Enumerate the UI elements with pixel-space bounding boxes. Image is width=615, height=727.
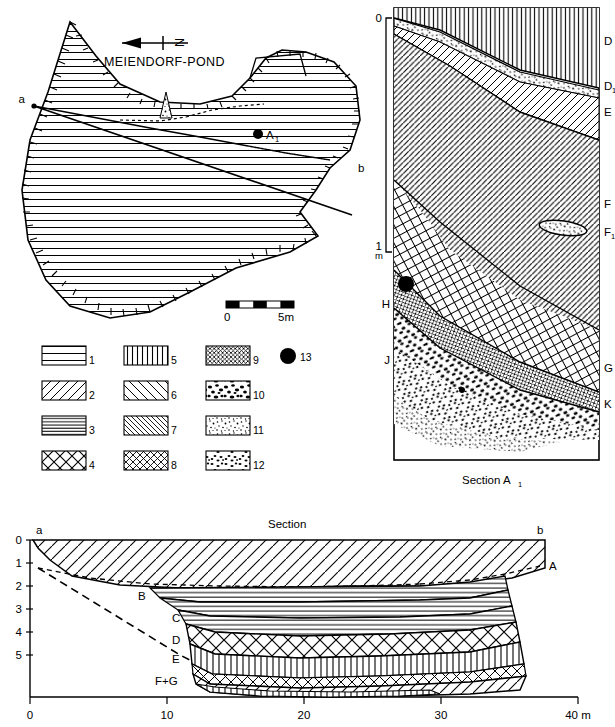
label-D: D bbox=[604, 35, 612, 47]
section-a1-caption: Section A bbox=[462, 474, 511, 486]
section-a1: 0 1 m D D 1 E F F 1 G K H J Section A 1 bbox=[375, 8, 615, 489]
x-tick-10: 10 bbox=[161, 709, 174, 721]
layer-A-body bbox=[33, 540, 545, 588]
label-J: J bbox=[384, 354, 390, 366]
section-ab-label-C: C bbox=[172, 612, 180, 624]
section-ab-y-tick-labels: 0 1 2 3 4 5 bbox=[16, 534, 23, 661]
section-ab-end-a: a bbox=[36, 524, 43, 536]
label-H: H bbox=[382, 298, 390, 310]
find-spot-dot bbox=[398, 276, 414, 292]
section-a1-depth-scale: 0 1 m bbox=[375, 12, 392, 261]
legend: 1 2 3 4 5 6 7 8 bbox=[42, 346, 312, 471]
figure-canvas: a b A 1 MEIENDORF-POND N 0 5m 1 bbox=[0, 0, 615, 727]
section-a1-caption-sub: 1 bbox=[518, 480, 522, 489]
map-endpoint-b-label: b bbox=[358, 162, 364, 174]
label-K: K bbox=[604, 398, 612, 410]
label-F: F bbox=[604, 198, 611, 210]
y-tick-2: 2 bbox=[16, 580, 22, 592]
legend-item-13: 13 bbox=[280, 348, 312, 364]
section-ab-x-tick-labels: 0 10 20 30 40 m bbox=[27, 709, 591, 721]
y-tick-0: 0 bbox=[16, 534, 22, 546]
x-tick-40: 40 m bbox=[565, 709, 591, 721]
legend-item-9-label: 9 bbox=[253, 354, 259, 366]
legend-item-11-label: 11 bbox=[253, 424, 264, 436]
legend-item-3-label: 3 bbox=[89, 424, 95, 436]
section-a1-labels-left: H J bbox=[382, 298, 390, 366]
x-tick-20: 20 bbox=[298, 709, 311, 721]
pond-map: a b A 1 MEIENDORF-POND N 0 5m bbox=[18, 18, 368, 328]
legend-item-5: 5 bbox=[124, 346, 177, 366]
x-tick-0: 0 bbox=[27, 709, 33, 721]
figure-root: a b A 1 MEIENDORF-POND N 0 5m 1 bbox=[0, 0, 615, 727]
section-a1-body bbox=[394, 8, 599, 452]
north-arrow: N bbox=[122, 36, 188, 50]
y-tick-5: 5 bbox=[16, 649, 22, 661]
legend-item-5-label: 5 bbox=[171, 354, 177, 366]
scale-bar-start-label: 0 bbox=[224, 311, 230, 323]
map-endpoint-a-label: a bbox=[19, 93, 26, 105]
legend-item-11: 11 bbox=[206, 416, 264, 436]
endpoint-a-dot bbox=[31, 103, 36, 108]
scale-bar-end-label: 5m bbox=[278, 311, 294, 323]
legend-item-3: 3 bbox=[42, 416, 95, 436]
section-ab-label-FG: F+G bbox=[155, 675, 178, 687]
x-tick-30: 30 bbox=[435, 709, 448, 721]
legend-item-1-label: 1 bbox=[89, 354, 95, 366]
legend-item-7-label: 7 bbox=[171, 424, 177, 436]
y-tick-1: 1 bbox=[16, 557, 22, 569]
section-ab-x-ticks bbox=[30, 697, 578, 704]
legend-item-12: 12 bbox=[206, 451, 265, 471]
find-spot-dot-2 bbox=[459, 387, 465, 393]
legend-item-12-label: 12 bbox=[253, 459, 265, 471]
label-F1: F bbox=[604, 226, 611, 238]
label-F1-sub: 1 bbox=[611, 232, 615, 241]
label-E: E bbox=[604, 106, 612, 118]
legend-item-2-label: 2 bbox=[89, 389, 95, 401]
section-a1-labels-right: D D 1 E F F 1 G K bbox=[604, 35, 615, 410]
legend-item-13-label: 13 bbox=[300, 351, 312, 363]
section-ab-label-E: E bbox=[172, 653, 180, 665]
legend-item-7: 7 bbox=[124, 416, 177, 436]
depth-scale-unit-label: m bbox=[375, 250, 383, 261]
depth-scale-top-label: 0 bbox=[376, 12, 382, 24]
legend-item-10: 10 bbox=[206, 381, 265, 401]
sample-point-a1-label: A bbox=[266, 129, 274, 141]
legend-item-4-label: 4 bbox=[89, 459, 95, 471]
section-ab-title: Section bbox=[268, 518, 306, 530]
sample-point-a1-sub: 1 bbox=[275, 135, 279, 144]
legend-item-10-label: 10 bbox=[253, 389, 265, 401]
label-G: G bbox=[604, 362, 613, 374]
section-ab-end-b: b bbox=[537, 524, 543, 536]
legend-dot-icon bbox=[280, 348, 296, 364]
legend-item-1: 1 bbox=[42, 346, 95, 366]
y-tick-3: 3 bbox=[16, 603, 22, 615]
legend-item-6: 6 bbox=[124, 381, 177, 401]
section-ab-label-B: B bbox=[138, 590, 146, 602]
north-arrow-label: N bbox=[173, 38, 187, 47]
map-scale-bar: 0 5m bbox=[224, 301, 294, 323]
legend-item-2: 2 bbox=[42, 381, 95, 401]
legend-item-9: 9 bbox=[206, 346, 259, 366]
section-ab: 0 1 2 3 4 5 0 10 20 30 40 m bbox=[16, 518, 591, 721]
legend-item-8-label: 8 bbox=[171, 459, 177, 471]
pond-title: MEIENDORF-POND bbox=[104, 55, 225, 69]
y-tick-4: 4 bbox=[16, 626, 23, 638]
section-ab-label-D: D bbox=[172, 634, 180, 646]
legend-item-8: 8 bbox=[124, 451, 177, 471]
section-ab-label-A: A bbox=[549, 560, 557, 572]
legend-item-4: 4 bbox=[42, 451, 95, 471]
sample-point-a1-marker[interactable] bbox=[253, 129, 263, 139]
legend-item-6-label: 6 bbox=[171, 389, 177, 401]
